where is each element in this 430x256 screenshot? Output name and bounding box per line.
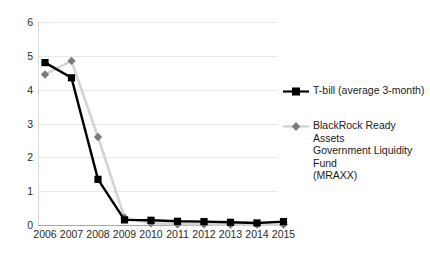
data-point (253, 219, 260, 226)
legend-entry-tbill[interactable]: T-bill (average 3-month) (283, 84, 428, 97)
series-mraxx (41, 57, 288, 229)
data-point (121, 216, 128, 223)
data-point (68, 74, 75, 81)
legend-label-mraxx-line1: BlackRock Ready Assets (313, 119, 396, 144)
legend-label-mraxx: BlackRock Ready AssetsGovernment Liquidi… (313, 119, 428, 182)
data-point (94, 176, 101, 183)
data-point (94, 133, 102, 141)
data-point (174, 218, 181, 225)
legend-swatch-tbill-icon (283, 86, 309, 97)
legend-label-mraxx-line3: (MRAXX) (313, 169, 357, 181)
data-point (41, 59, 48, 66)
legend-entry-mraxx[interactable]: BlackRock Ready AssetsGovernment Liquidi… (283, 119, 428, 182)
line-chart: 6 5 4 3 2 1 0 2006 2007 2008 2009 2010 2… (0, 0, 430, 256)
legend-label-tbill: T-bill (average 3-month) (313, 84, 428, 97)
data-point (147, 217, 154, 224)
series-line (45, 61, 284, 225)
data-point (200, 218, 207, 225)
data-point (227, 219, 234, 226)
data-point (280, 218, 287, 225)
legend-label-mraxx-line2: Government Liquidity Fund (313, 144, 412, 169)
legend-swatch-mraxx-icon (283, 121, 309, 132)
